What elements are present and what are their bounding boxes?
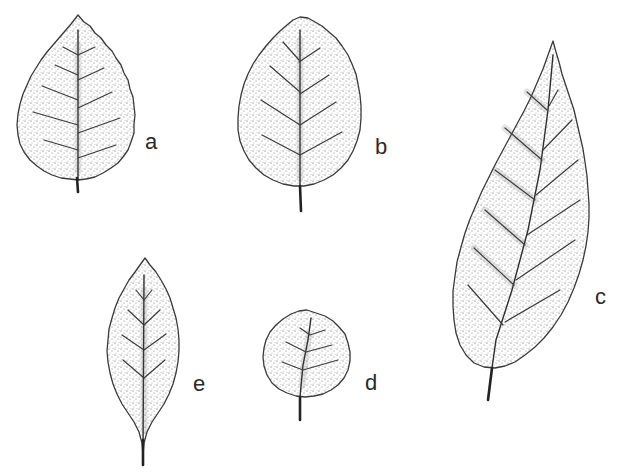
leaf-e-drawing <box>107 258 179 465</box>
label-b: b <box>375 136 387 158</box>
label-d: d <box>365 372 377 394</box>
leaf-d-drawing <box>263 310 350 420</box>
label-e: e <box>193 373 205 395</box>
leaf-drawings <box>0 0 621 474</box>
leaf-b-drawing <box>238 17 361 211</box>
leaf-figure: a b c d e <box>0 0 621 474</box>
label-c: c <box>595 286 606 308</box>
leaf-c-drawing <box>453 41 589 400</box>
label-a: a <box>145 131 157 153</box>
leaf-a-drawing <box>17 15 135 192</box>
